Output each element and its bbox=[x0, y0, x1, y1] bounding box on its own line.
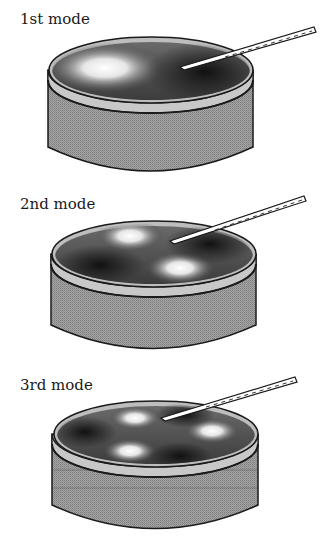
diagram-canvas bbox=[0, 0, 328, 542]
cylinder-mode-1 bbox=[43, 37, 265, 171]
antinode-highlight bbox=[109, 406, 161, 430]
cylinder-mode-2 bbox=[51, 220, 256, 349]
cylinder-mode-3 bbox=[52, 401, 258, 529]
